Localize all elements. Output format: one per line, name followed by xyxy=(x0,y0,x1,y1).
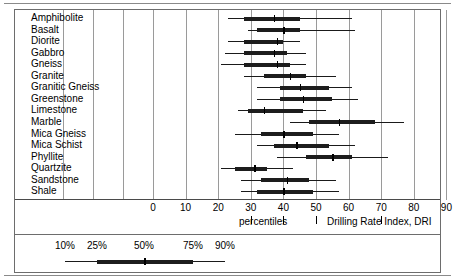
row-label-greenstone: Greenstone xyxy=(31,93,83,105)
row-label-granitic-gneiss: Granitic Gneiss xyxy=(31,81,99,93)
median-p50-mark xyxy=(332,154,334,161)
legend-label-25pct: 25% xyxy=(87,240,107,251)
median-p50-mark xyxy=(287,177,289,184)
legend-label-50pct: 50% xyxy=(134,240,154,251)
row-label-diorite: Diorite xyxy=(31,35,60,47)
row-label-sandstone: Sandstone xyxy=(31,174,79,186)
gridline-90 xyxy=(446,10,447,200)
legend-label-90pct: 90% xyxy=(215,240,235,251)
row-label-quartzite: Quartzite xyxy=(31,162,72,174)
median-p50-mark xyxy=(283,188,285,195)
page-top-rule xyxy=(4,3,451,4)
x-tick-label-20: 20 xyxy=(213,202,224,213)
median-p50-mark xyxy=(300,84,302,91)
x-axis-area: 0102030405060708090 percentiles Drilling… xyxy=(15,200,440,234)
boxplot-row: Greenstone xyxy=(15,94,440,106)
median-p50-mark xyxy=(264,107,266,114)
box-p25-p75 xyxy=(244,51,286,55)
box-p25-p75 xyxy=(244,63,290,67)
row-label-limestone: Limestone xyxy=(31,104,77,116)
box-p25-p75 xyxy=(244,17,299,21)
row-label-shale: Shale xyxy=(31,185,57,197)
median-p50-mark xyxy=(277,61,279,68)
boxplot-row: Diorite xyxy=(15,36,440,48)
median-p50-mark xyxy=(277,38,279,45)
boxplot-row: Shale xyxy=(15,186,440,198)
row-label-amphibolite: Amphibolite xyxy=(31,12,83,24)
boxplot-row: Basalt xyxy=(15,25,440,37)
boxplot-rows: AmphiboliteBasaltDioriteGabbroGneissGran… xyxy=(15,10,440,200)
boxplot-row: Gneiss xyxy=(15,59,440,71)
row-label-mica-schist: Mica Schist xyxy=(31,139,82,151)
box-p25-p75 xyxy=(280,97,332,101)
median-p50-mark xyxy=(303,96,305,103)
box-p25-p75 xyxy=(257,28,299,32)
chart-frame: AmphiboliteBasaltDioriteGabbroGneissGran… xyxy=(14,9,441,273)
x-tick-label-70: 70 xyxy=(376,202,387,213)
box-p25-p75 xyxy=(309,120,374,124)
box-p25-p75 xyxy=(257,190,312,194)
page-bottom-rule xyxy=(4,275,451,276)
box-p25-p75 xyxy=(248,109,303,113)
percentiles-caption: percentiles xyxy=(239,216,287,227)
box-p25-p75 xyxy=(274,144,329,148)
median-p50-mark xyxy=(339,119,341,126)
x-tick-label-10: 10 xyxy=(180,202,191,213)
row-label-mica-gneiss: Mica Gneiss xyxy=(31,128,86,140)
figure-page: AmphiboliteBasaltDioriteGabbroGneissGran… xyxy=(0,0,455,280)
x-tick-label-0: 0 xyxy=(150,202,156,213)
boxplot-row: Mica Schist xyxy=(15,140,440,152)
legend-label-75pct: 75% xyxy=(183,240,203,251)
x-tick-label-90: 90 xyxy=(441,202,452,213)
x-tick-label-80: 80 xyxy=(408,202,419,213)
median-p50-mark xyxy=(283,131,285,138)
box-p25-p75 xyxy=(235,167,268,171)
median-p50-mark xyxy=(296,142,298,149)
median-p50-mark xyxy=(254,165,256,172)
row-label-gabbro: Gabbro xyxy=(31,47,64,59)
percentile-legend: 10%25%50%75%90% xyxy=(15,234,440,272)
boxplot-row: Limestone xyxy=(15,105,440,117)
row-label-phyllite: Phyllite xyxy=(31,151,63,163)
legend-median-mark xyxy=(144,258,146,265)
x-tick-label-50: 50 xyxy=(310,202,321,213)
boxplot-row: Amphibolite xyxy=(15,13,440,25)
boxplot-row: Sandstone xyxy=(15,175,440,187)
x-axis-title: Drilling Rate Index, DRI xyxy=(327,216,431,227)
plot-area: AmphiboliteBasaltDioriteGabbroGneissGran… xyxy=(15,10,440,200)
percentile-mark-50 xyxy=(316,216,317,224)
box-p25-p75 xyxy=(280,86,329,90)
median-p50-mark xyxy=(290,73,292,80)
x-tick-label-40: 40 xyxy=(278,202,289,213)
boxplot-row: Gabbro xyxy=(15,48,440,60)
row-label-marble: Marble xyxy=(31,116,62,128)
box-p25-p75 xyxy=(261,178,310,182)
median-p50-mark xyxy=(274,15,276,22)
row-label-basalt: Basalt xyxy=(31,24,59,36)
x-tick-label-30: 30 xyxy=(245,202,256,213)
median-p50-mark xyxy=(274,50,276,57)
box-p25-p75 xyxy=(306,155,352,159)
median-p50-mark xyxy=(283,27,285,34)
row-label-gneiss: Gneiss xyxy=(31,58,62,70)
x-tick-label-60: 60 xyxy=(343,202,354,213)
legend-label-10pct: 10% xyxy=(55,240,75,251)
boxplot-row: Phyllite xyxy=(15,152,440,164)
box-p25-p75 xyxy=(264,74,306,78)
row-label-granite: Granite xyxy=(31,70,64,82)
box-p25-p75 xyxy=(261,132,313,136)
